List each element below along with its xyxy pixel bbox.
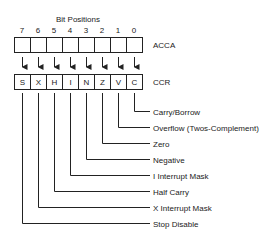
flag-label-zero: Zero xyxy=(153,140,170,149)
ccr-bit-v: V xyxy=(116,78,122,87)
ccr-bit-s: S xyxy=(20,78,25,87)
ccr-register xyxy=(15,75,143,90)
ccr-label: CCR xyxy=(153,78,171,87)
flag-label-carry: Carry/Borrow xyxy=(153,108,200,117)
bit-number: 3 xyxy=(84,26,89,35)
flag-labels: Carry/Borrow Overflow (Twos-Complement) … xyxy=(153,108,259,229)
flag-label-half-carry: Half Carry xyxy=(153,188,189,197)
bit-number: 5 xyxy=(52,26,57,35)
bit-number: 1 xyxy=(116,26,121,35)
acca-register xyxy=(15,38,143,53)
ccr-diagram: Bit Positions 7 6 5 4 3 2 1 0 ACCA xyxy=(0,0,267,238)
flag-label-i-interrupt: I Interrupt Mask xyxy=(153,172,210,181)
flag-label-overflow: Overflow (Twos-Complement) xyxy=(153,124,259,133)
ccr-bit-c: C xyxy=(132,78,138,87)
bit-number-row: 7 6 5 4 3 2 1 0 xyxy=(20,26,137,35)
flag-label-x-interrupt: X Interrupt Mask xyxy=(153,204,213,213)
ccr-bit-h: H xyxy=(52,78,58,87)
bit-positions-title: Bit Positions xyxy=(56,15,100,24)
flag-leader-lines xyxy=(23,93,151,224)
bit-number: 4 xyxy=(68,26,73,35)
bit-number: 2 xyxy=(100,26,105,35)
ccr-bit-i: I xyxy=(69,78,71,87)
bit-number: 6 xyxy=(36,26,41,35)
bit-number: 0 xyxy=(132,26,137,35)
ccr-bit-x: X xyxy=(36,78,42,87)
acca-label: ACCA xyxy=(153,41,176,50)
flag-label-negative: Negative xyxy=(153,156,185,165)
ccr-bit-n: N xyxy=(84,78,90,87)
flag-label-stop-disable: Stop Disable xyxy=(153,220,199,229)
transfer-arrows xyxy=(23,57,135,67)
bit-number: 7 xyxy=(20,26,25,35)
ccr-bit-z: Z xyxy=(100,78,105,87)
